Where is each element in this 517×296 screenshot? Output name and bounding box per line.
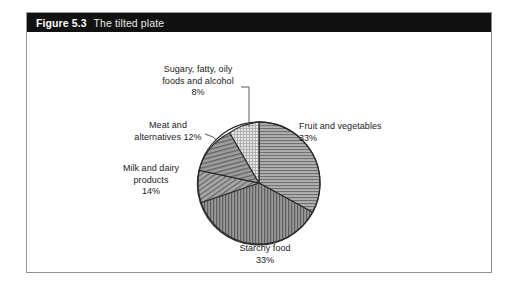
pie-label-meat-and-alternatives: Meat and alternatives 12% <box>103 120 233 143</box>
figure-caption-text: The tilted plate <box>94 17 164 29</box>
pie-label-fruit-and-vegetables: Fruit and vegetables 33% <box>299 121 439 144</box>
pie-chart-area: Sugary, fatty, oily foods and alcohol 8%… <box>27 32 491 273</box>
pie-label-starchy-food: Starchy food 33% <box>195 243 335 266</box>
pie-label-sugary-fatty-oily-foods-and-alcohol: Sugary, fatty, oily foods and alcohol 8% <box>132 64 264 99</box>
figure-caption-bar: Figure 5.3 The tilted plate <box>27 13 491 32</box>
figure-frame: Figure 5.3 The tilted plate <box>26 12 492 273</box>
figure-number: Figure 5.3 <box>36 17 87 29</box>
pie-label-milk-and-dairy-products: Milk and dairy products 14% <box>85 163 217 198</box>
